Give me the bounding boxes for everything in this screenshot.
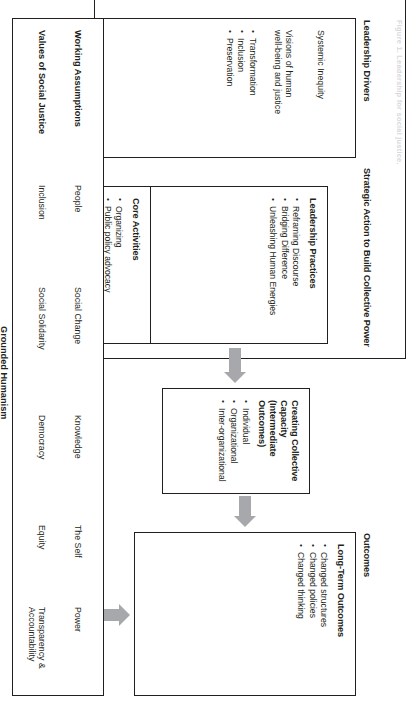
grounded-humanism-caption: Grounded Humanism (0, 326, 9, 419)
capacity-bullet-0: Individual (239, 400, 251, 483)
diagram-canvas: Figure 1. Leadership for social justice.… (0, 0, 406, 722)
assumption-the-self: The Self (73, 525, 83, 558)
activities-bullet-0: Organizing (113, 198, 125, 333)
assumption-power: Power (73, 607, 83, 632)
capacity-title-line2: (Intermediate Outcomes) (257, 400, 279, 483)
grounded-humanism-row-label-working-assumptions: Working Assumptions (73, 30, 83, 127)
value-inclusion: Inclusion (37, 185, 47, 220)
outcomes-bullet-0: Changed structures (318, 544, 330, 685)
outcomes-bullet-2: Changed thinking (294, 544, 306, 685)
value-transparency-accountability: Transparency & Accountability (27, 607, 47, 699)
leadership-practices-title: Leadership Practices (307, 198, 318, 333)
drivers-bullet-2: Preservation (223, 30, 235, 147)
section-header-leadership-drivers: Leadership Drivers (362, 20, 372, 101)
grounded-humanism-row-label-values: Values of Social Justice (37, 30, 47, 134)
leadership-practices-box: Leadership Practices Reframing Discourse… (150, 186, 328, 344)
creating-collective-capacity-box: Creating Collective Capacity (Intermedia… (162, 388, 310, 494)
value-social-solidarity: Social Solidarity (37, 287, 47, 350)
leadership-drivers-bullets: Transformation Inclusion Preservation (223, 30, 258, 147)
assumption-people: People (73, 185, 83, 212)
driver-systemic-inequity: Systemic Inequity (316, 30, 326, 147)
grounded-humanism-box: Working Assumptions Values of Social Jus… (12, 18, 104, 696)
section-header-outcomes: Outcomes (362, 533, 372, 577)
practices-bullet-2: Unleashing Human Energies (266, 198, 278, 333)
figure-caption: Figure 1. Leadership for social justice. (395, 20, 404, 165)
value-equity: Equity (37, 525, 47, 549)
capacity-bullet-2: Inter-organizational (216, 400, 228, 483)
assumption-social-change: Social Change (73, 287, 83, 344)
assumption-knowledge: Knowledge (73, 415, 83, 459)
capacity-title-line1: Creating Collective Capacity (278, 400, 300, 483)
section-header-strategic-action: Strategic Action to Build Collective Pow… (362, 168, 372, 347)
long-term-outcomes-title: Long-Term Outcomes (335, 544, 346, 685)
drivers-bullet-1: Inclusion (235, 30, 247, 147)
long-term-outcomes-box: Long-Term Outcomes Changed structures Ch… (134, 532, 356, 696)
leadership-practices-bullets: Reframing Discourse Bridging Difference … (266, 198, 301, 333)
practices-bullet-0: Reframing Discourse (290, 198, 302, 333)
core-activities-title: Core Activities (130, 198, 141, 333)
driver-visions-line2: well-being and justice (272, 30, 283, 147)
practices-bullet-1: Bridging Difference (278, 198, 290, 333)
driver-visions-line1: Visions of human (283, 30, 294, 147)
value-democracy: Democracy (37, 415, 47, 459)
drivers-bullet-0: Transformation (246, 30, 258, 147)
outcomes-bullet-1: Changed policies (306, 544, 318, 685)
long-term-outcomes-bullets: Changed structures Changed policies Chan… (294, 544, 329, 685)
capacity-bullets: Individual Organizational Inter-organiza… (216, 400, 251, 483)
capacity-bullet-1: Organizational (227, 400, 239, 483)
